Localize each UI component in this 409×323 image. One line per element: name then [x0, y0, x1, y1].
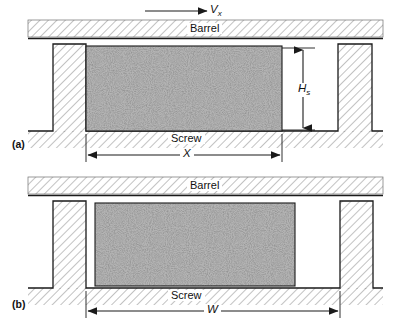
width-label-W: W — [204, 304, 221, 316]
panel-label-a: (a) — [12, 139, 25, 150]
material-bed-b — [95, 203, 295, 286]
panel-label-b: (b) — [12, 299, 25, 310]
solidbed-label-X: X — [180, 148, 194, 160]
velocity-label-a: Vx — [210, 4, 222, 18]
barrel-label-b: Barrel — [187, 180, 222, 191]
material-bed-a — [86, 46, 282, 131]
panel-b — [28, 177, 383, 318]
screw-label-a: Screw — [168, 133, 205, 144]
screw-label-b: Screw — [168, 290, 205, 301]
depth-label-Hs: Hs — [295, 83, 313, 97]
barrel-label-a: Barrel — [187, 23, 222, 34]
extruder-channel-diagram — [0, 0, 409, 323]
